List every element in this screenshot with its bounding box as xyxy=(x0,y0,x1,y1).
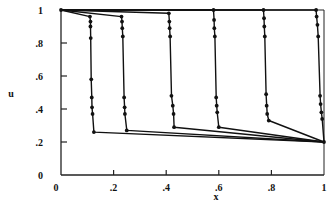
data-point-marker xyxy=(168,35,172,39)
data-point-marker xyxy=(322,140,326,144)
data-point-marker xyxy=(316,35,320,39)
y-tick-label: .2 xyxy=(36,137,44,148)
data-point-marker xyxy=(267,119,271,123)
data-point-marker xyxy=(90,105,94,109)
series-line xyxy=(61,10,324,142)
data-point-marker xyxy=(217,125,221,129)
data-point-marker xyxy=(120,26,124,30)
data-point-marker xyxy=(315,15,319,19)
series-profile-3 xyxy=(61,10,324,142)
x-axis-label: x xyxy=(214,191,219,202)
data-point-marker xyxy=(264,92,268,96)
x-tick-label: .4 xyxy=(162,182,170,193)
data-point-marker xyxy=(89,77,93,81)
data-point-marker xyxy=(265,112,269,116)
series-profile-2 xyxy=(61,10,324,142)
x-tick-label: .8 xyxy=(268,182,276,193)
axes: 0.2.4.6.810.2.4.6.81 xyxy=(36,5,327,193)
data-point-marker xyxy=(91,112,95,116)
x-tick-label: .2 xyxy=(110,182,118,193)
data-point-marker xyxy=(318,94,322,98)
data-point-marker xyxy=(89,25,93,29)
data-point-marker xyxy=(214,96,218,100)
data-point-marker xyxy=(172,125,176,129)
data-point-marker xyxy=(89,20,93,24)
series-line xyxy=(61,10,324,142)
data-point-marker xyxy=(89,36,93,40)
series-line xyxy=(61,10,324,142)
data-point-marker xyxy=(215,104,219,108)
series-line xyxy=(61,10,324,142)
data-point-marker xyxy=(262,16,266,20)
data-point-marker xyxy=(168,26,172,30)
data-point-marker xyxy=(120,20,124,24)
series-line xyxy=(61,10,324,142)
series-profile-1 xyxy=(59,8,324,142)
data-point-marker xyxy=(265,104,269,108)
x-tick-label: 0 xyxy=(54,182,59,193)
data-point-marker xyxy=(120,15,124,19)
y-tick-label: 1 xyxy=(38,5,43,16)
data-point-marker xyxy=(319,110,323,114)
y-tick-label: .8 xyxy=(36,38,44,49)
series-profile-4 xyxy=(61,8,324,142)
y-tick-label: .4 xyxy=(36,104,44,115)
data-point-marker xyxy=(262,25,266,29)
data-point-marker xyxy=(123,112,127,116)
data-point-marker xyxy=(170,94,174,98)
x-tick-label: 1 xyxy=(322,182,327,193)
data-point-marker xyxy=(171,104,175,108)
data-point-marker xyxy=(320,117,324,121)
shock-profiles-chart: 0.2.4.6.810.2.4.6.81 x u xyxy=(0,0,331,204)
data-point-marker xyxy=(90,96,94,100)
data-point-marker xyxy=(212,18,216,22)
data-point-marker xyxy=(215,110,219,114)
series-line xyxy=(61,10,324,142)
y-tick-label: 0 xyxy=(38,170,43,181)
data-point-marker xyxy=(123,105,127,109)
data-point-marker xyxy=(92,130,96,134)
data-point-marker xyxy=(316,23,320,27)
data-point-marker xyxy=(121,35,125,39)
data-point-marker xyxy=(122,96,126,100)
data-point-marker xyxy=(125,129,129,133)
data-point-marker xyxy=(172,112,176,116)
data-point-marker xyxy=(319,102,323,106)
data-point-marker xyxy=(213,35,217,39)
data-point-marker xyxy=(167,11,171,15)
series-profile-5 xyxy=(61,8,324,142)
data-point-marker xyxy=(212,26,216,30)
series-profile-6 xyxy=(61,8,326,144)
data-point-marker xyxy=(314,8,318,12)
data-point-marker xyxy=(167,20,171,24)
y-axis-label: u xyxy=(8,88,14,99)
data-point-marker xyxy=(263,35,267,39)
data-point-marker xyxy=(88,15,92,19)
data-series xyxy=(59,8,326,144)
y-tick-label: .6 xyxy=(36,71,44,82)
